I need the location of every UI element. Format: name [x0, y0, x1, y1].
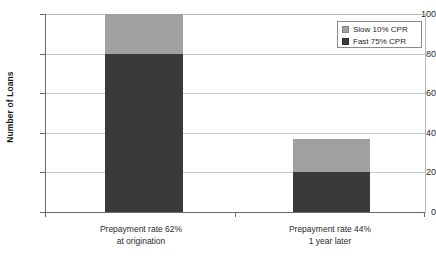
- legend-swatch-slow-icon: [342, 26, 349, 33]
- gridline-60: [46, 93, 426, 94]
- x-tick-mark-right: [424, 213, 425, 217]
- chart-legend: Slow 10% CPR Fast 75% CPR: [337, 21, 422, 48]
- x-axis-label-category-2: Prepayment rate 44% 1 year later: [251, 224, 409, 247]
- gridline-100: [46, 14, 426, 15]
- bar-segment-slow-1: [105, 14, 183, 54]
- x-axis-label-1-line1: Prepayment rate 62%: [100, 224, 182, 234]
- x-axis-label-category-1: Prepayment rate 62% at origination: [62, 224, 220, 247]
- y-axis-title-text: Number of Loans: [5, 71, 15, 142]
- stacked-bar-chart: Number of Loans 100 80 60 40 20 0: [0, 0, 436, 258]
- legend-label-slow: Slow 10% CPR: [353, 25, 408, 34]
- bar-segment-slow-2: [293, 139, 370, 173]
- x-tick-mark-left: [45, 213, 46, 217]
- gridline-40: [46, 133, 426, 134]
- x-axis-label-1-line2: at origination: [62, 236, 220, 248]
- bar-segment-fast-1: [105, 54, 183, 212]
- bar-segment-fast-2: [293, 172, 370, 212]
- plot-area-right-border: [425, 14, 426, 213]
- x-tick-mark-middle: [235, 213, 236, 217]
- x-axis-label-2-line1: Prepayment rate 44%: [289, 224, 371, 234]
- gridline-80: [46, 54, 426, 55]
- legend-swatch-fast-icon: [342, 38, 349, 45]
- x-axis-label-2-line2: 1 year later: [251, 236, 409, 248]
- legend-item-slow: Slow 10% CPR: [342, 24, 421, 35]
- legend-label-fast: Fast 75% CPR: [353, 37, 406, 46]
- legend-item-fast: Fast 75% CPR: [342, 36, 421, 47]
- y-axis-title: Number of Loans: [0, 0, 20, 214]
